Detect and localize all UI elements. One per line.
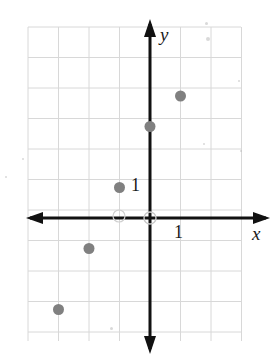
coordinate-plane-figure: y x 1 1: [0, 0, 275, 361]
scan-speck: [22, 158, 24, 160]
data-point: [145, 121, 156, 132]
scan-speck: [240, 150, 242, 152]
x-unit-tick-label: 1: [174, 223, 183, 241]
axes: [26, 19, 270, 354]
y-unit-tick-label: 1: [131, 176, 140, 194]
scan-speck: [203, 143, 205, 145]
data-point: [53, 304, 64, 315]
y-axis-up-arrow: [144, 19, 156, 37]
data-point: [175, 91, 186, 102]
scan-speck: [206, 37, 210, 41]
data-point: [84, 243, 95, 254]
scan-speck: [110, 327, 113, 330]
data-point: [114, 182, 125, 193]
scan-speck: [238, 80, 240, 82]
x-axis-label: x: [252, 224, 260, 243]
y-axis-down-arrow: [144, 336, 156, 354]
scan-speck: [205, 22, 208, 25]
x-axis-left-arrow: [26, 212, 43, 224]
scan-speck: [5, 176, 7, 178]
y-axis-label: y: [160, 25, 168, 44]
